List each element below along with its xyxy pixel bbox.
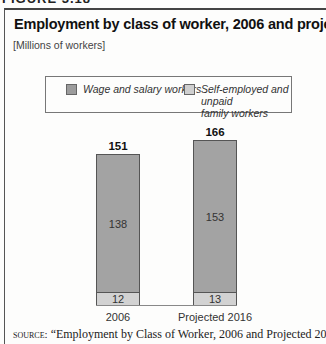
figure-label: FIGURE 3.18 bbox=[2, 0, 91, 6]
legend-label-line2: family workers bbox=[201, 107, 268, 119]
bar-value-self-2016: 13 bbox=[209, 293, 221, 305]
source-note: source: “Employment by Class of Worker, … bbox=[13, 327, 326, 342]
bar-value-wage-2016: 153 bbox=[206, 211, 224, 223]
legend-swatch-self-employed bbox=[184, 84, 195, 95]
chart-subtitle: [Millions of workers] bbox=[13, 39, 105, 51]
legend-label-self-employed: Self-employed and unpaid family workers bbox=[201, 83, 291, 119]
bar-segment-self-2016: 13 bbox=[193, 292, 237, 306]
source-prefix: source: bbox=[13, 328, 48, 340]
x-label-2006: 2006 bbox=[88, 311, 148, 323]
legend-item-wage: Wage and salary workers bbox=[66, 83, 201, 95]
source-text: “Employment by Class of Worker, 2006 and… bbox=[51, 327, 326, 341]
bar-total-2016: 166 bbox=[193, 126, 237, 138]
x-label-2016: Projected 2016 bbox=[170, 311, 260, 323]
chart-title: Employment by class of worker, 2006 and … bbox=[14, 16, 326, 32]
figure-frame bbox=[4, 8, 326, 344]
bar-value-wage-2006: 138 bbox=[109, 218, 127, 230]
bar-segment-wage-2016: 153 bbox=[193, 140, 237, 293]
legend: Wage and salary workers Self-employed an… bbox=[45, 76, 292, 113]
legend-label-line1: Self-employed and unpaid bbox=[201, 83, 289, 107]
bar-value-self-2006: 12 bbox=[112, 293, 124, 305]
bar-total-2006: 151 bbox=[96, 140, 140, 152]
bar-segment-wage-2006: 138 bbox=[96, 154, 140, 293]
x-axis-baseline bbox=[96, 305, 237, 306]
bar-segment-self-2006: 12 bbox=[96, 292, 140, 306]
legend-item-self-employed: Self-employed and unpaid family workers bbox=[184, 83, 291, 119]
legend-swatch-wage bbox=[66, 84, 77, 95]
